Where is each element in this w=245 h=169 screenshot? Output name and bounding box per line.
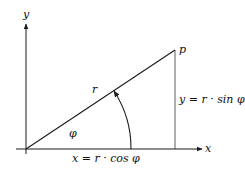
radius-line — [26, 50, 175, 149]
polar-coordinates-diagram: y x p r φ x = r · cos φ y = r · sin φ — [0, 0, 245, 169]
x-axis-label: x — [205, 142, 212, 155]
y-axis-label: y — [22, 8, 30, 21]
angle-arc — [114, 91, 131, 149]
point-label: p — [179, 43, 186, 56]
y-formula: y = r · sin φ — [178, 93, 245, 106]
x-formula: x = r · cos φ — [72, 152, 140, 165]
angle-label: φ — [69, 127, 77, 140]
radius-label: r — [92, 83, 98, 96]
